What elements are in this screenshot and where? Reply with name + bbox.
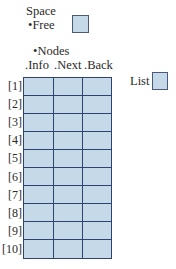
- cell-info: [24, 240, 54, 258]
- row-index: [9]: [0, 225, 22, 238]
- cell-next: [54, 78, 83, 96]
- cell-info: [24, 114, 54, 132]
- nodes-label: •Nodes: [33, 45, 69, 58]
- cell-next: [54, 150, 83, 168]
- row-index: [4]: [0, 134, 22, 147]
- column-header-info: .Info: [25, 59, 49, 72]
- cell-next: [54, 186, 83, 204]
- cell-back: [83, 168, 111, 186]
- cell-back: [83, 132, 111, 150]
- space-label: Space: [26, 5, 56, 18]
- cell-next: [54, 168, 83, 186]
- cell-back: [83, 114, 111, 132]
- cell-info: [24, 132, 54, 150]
- cell-next: [54, 222, 83, 240]
- row-index: [7]: [0, 189, 22, 202]
- cell-next: [54, 114, 83, 132]
- cell-back: [83, 186, 111, 204]
- list-pointer-box: [152, 72, 168, 90]
- cell-back: [83, 78, 111, 96]
- cell-back: [83, 150, 111, 168]
- row-index: [8]: [0, 207, 22, 220]
- cell-info: [24, 222, 54, 240]
- cell-info: [24, 78, 54, 96]
- cell-back: [83, 222, 111, 240]
- free-label: •Free: [28, 19, 55, 32]
- list-label: List: [130, 75, 149, 88]
- free-pointer-box: [72, 15, 89, 33]
- row-index: [5]: [0, 152, 22, 165]
- cell-back: [83, 96, 111, 114]
- cell-back: [83, 240, 111, 258]
- column-header-next: .Next: [54, 59, 81, 72]
- cell-next: [54, 204, 83, 222]
- cell-info: [24, 204, 54, 222]
- row-index: [10]: [0, 243, 22, 256]
- cell-next: [54, 240, 83, 258]
- nodes-array-grid: [23, 77, 112, 259]
- cell-back: [83, 204, 111, 222]
- row-index: [6]: [0, 171, 22, 184]
- row-index: [1]: [0, 80, 22, 93]
- cell-info: [24, 168, 54, 186]
- row-index: [2]: [0, 98, 22, 111]
- cell-next: [54, 132, 83, 150]
- cell-info: [24, 150, 54, 168]
- row-index: [3]: [0, 116, 22, 129]
- cell-next: [54, 96, 83, 114]
- cell-info: [24, 96, 54, 114]
- column-header-back: .Back: [84, 59, 113, 72]
- cell-info: [24, 186, 54, 204]
